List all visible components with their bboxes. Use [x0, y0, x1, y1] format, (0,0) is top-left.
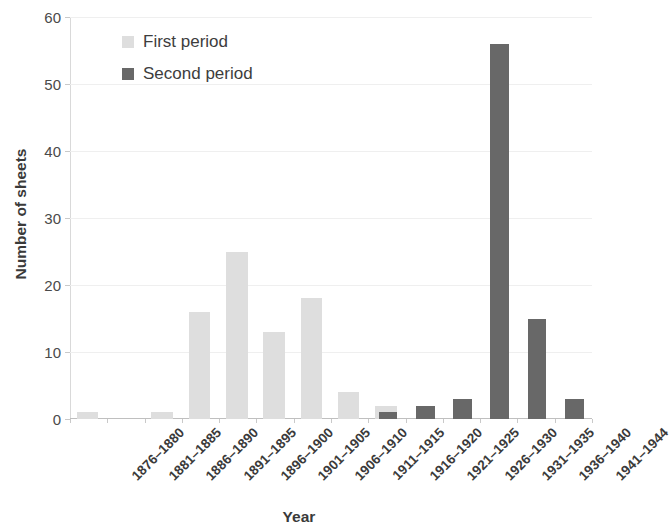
y-tick-mark [65, 285, 70, 286]
x-axis-tick-labels: 1876–18801881–18851886–18901891–18951896… [70, 419, 592, 509]
legend-item: First period [122, 30, 253, 53]
bar [226, 252, 248, 420]
legend-swatch-icon [122, 36, 134, 48]
gridline [70, 285, 592, 286]
bar [301, 298, 323, 419]
y-tick-label: 10 [44, 344, 61, 361]
legend-label: First period [143, 32, 228, 52]
bar [416, 406, 435, 419]
bar [338, 392, 360, 419]
y-tick-mark [65, 84, 70, 85]
bar [528, 319, 547, 420]
y-tick-mark [65, 151, 70, 152]
y-axis-title: Number of sheets [12, 114, 30, 314]
y-tick-label: 20 [44, 277, 61, 294]
x-tick-mark [592, 419, 593, 423]
legend-item: Second period [122, 62, 253, 85]
gridline [70, 17, 592, 18]
y-tick-label: 50 [44, 76, 61, 93]
bar [379, 412, 398, 419]
gridline [70, 151, 592, 152]
y-tick-label: 40 [44, 143, 61, 160]
y-tick-label: 0 [53, 411, 61, 428]
y-tick-label: 30 [44, 210, 61, 227]
bar [490, 44, 509, 419]
gridline [70, 218, 592, 219]
x-axis-title: Year [0, 508, 598, 526]
legend: First periodSecond period [122, 30, 253, 94]
bar [151, 412, 173, 419]
bar [77, 412, 99, 419]
gridline [70, 352, 592, 353]
legend-swatch-icon [122, 68, 134, 80]
y-tick-mark [65, 352, 70, 353]
bar [565, 399, 584, 419]
bar [263, 332, 285, 419]
y-tick-label: 60 [44, 9, 61, 26]
bar [453, 399, 472, 419]
bar [189, 312, 211, 419]
legend-label: Second period [143, 64, 253, 84]
y-tick-mark [65, 17, 70, 18]
y-tick-mark [65, 218, 70, 219]
